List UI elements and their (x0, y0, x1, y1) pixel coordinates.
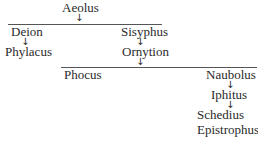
arrow-down-icon: ↓ (75, 13, 83, 23)
node-phocus: Phocus (64, 68, 102, 81)
node-sisyphus: Sisyphus (121, 25, 168, 38)
node-epistrophus: Epistrophus (197, 123, 258, 136)
node-schedius: Schedius (197, 108, 244, 121)
node-ornytion: Ornytion (122, 45, 169, 58)
node-phylacus: Phylacus (5, 45, 52, 58)
arrow-down-icon: ↓ (136, 57, 144, 67)
